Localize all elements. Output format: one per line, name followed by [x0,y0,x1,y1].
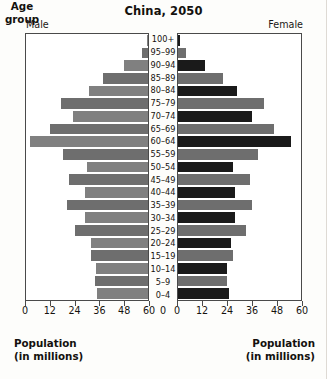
bar-row [178,47,301,60]
female-plot-area [177,33,302,301]
age-label-40-44: 40–44 [149,186,177,199]
bar-row [178,123,301,136]
bar-row [26,123,148,136]
male-bar-100+ [147,35,148,46]
age-label-15-19: 15–19 [149,250,177,263]
bar-row [178,249,301,262]
male-bar-50-54 [87,162,148,173]
age-label-10-14: 10–14 [149,263,177,276]
male-axis-caption-line2: (in millions) [14,350,134,363]
male-bar-90-94 [124,60,148,71]
bar-row [26,72,148,85]
male-bar-75-79 [61,98,148,109]
bar-row [178,199,301,212]
bar-row [26,199,148,212]
male-bar-80-84 [89,86,148,97]
age-label-0-4: 0–4 [149,288,177,301]
male-bar-65-69 [50,124,148,135]
male-bar-60-64 [30,136,148,147]
bar-row [178,186,301,199]
female-axis-caption: Population (in millions) [195,337,315,363]
bar-row [178,110,301,123]
age-label-80-84: 80–84 [149,84,177,97]
female-axis-tick-labels: 01224364860 [153,305,327,319]
bar-row [26,85,148,98]
male-bar-10-14 [96,263,148,274]
male-axis-caption: Population (in millions) [14,337,134,363]
bar-row [178,237,301,250]
male-bar-0-4 [97,288,148,299]
age-label-55-59: 55–59 [149,148,177,161]
bar-row [26,224,148,237]
bar-row [26,237,148,250]
population-pyramid-chart: China, 2050 Male Female 0–45–910–1415–19… [0,0,327,379]
bar-row [26,287,148,300]
bar-row [178,262,301,275]
age-label-75-79: 75–79 [149,97,177,110]
male-bar-30-34 [85,212,148,223]
female-bar-55-59 [178,149,258,160]
age-label-65-69: 65–69 [149,122,177,135]
male-bar-5-9 [95,276,148,287]
bar-row [26,211,148,224]
bar-row [26,262,148,275]
bar-row [26,161,148,174]
age-label-95-99: 95–99 [149,46,177,59]
male-bar-70-74 [73,111,148,122]
female-bar-40-44 [178,187,235,198]
male-bar-rows [26,34,148,300]
bar-row [26,47,148,60]
age-label-20-24: 20–24 [149,237,177,250]
female-tick-label-60: 60 [287,305,317,316]
bar-row [26,59,148,72]
female-panel-label: Female [268,19,303,30]
female-bar-25-29 [178,225,246,236]
bar-row [26,275,148,288]
bar-row [178,211,301,224]
female-bar-5-9 [178,276,227,287]
female-bar-75-79 [178,98,264,109]
male-tick-label-0: 0 [10,305,40,316]
bar-row [178,34,301,47]
female-bar-95-99 [178,48,186,59]
bar-row [26,186,148,199]
female-bar-0-4 [178,288,229,299]
age-label-25-29: 25–29 [149,224,177,237]
male-plot-area [25,33,149,301]
age-label-5-9: 5–9 [149,275,177,288]
female-bar-90-94 [178,60,205,71]
bar-row [178,135,301,148]
bar-row [178,148,301,161]
bar-row [26,148,148,161]
male-bar-40-44 [85,187,148,198]
bar-row [26,249,148,262]
female-bar-10-14 [178,263,227,274]
bar-row [178,97,301,110]
female-bar-50-54 [178,162,233,173]
male-bar-45-49 [69,174,148,185]
bar-row [26,110,148,123]
female-axis-caption-line1: Population [195,337,315,350]
bar-row [26,34,148,47]
male-bar-25-29 [75,225,148,236]
age-label-70-74: 70–74 [149,110,177,123]
age-label-50-54: 50–54 [149,161,177,174]
bar-row [178,59,301,72]
male-zero-label: 0 [160,305,166,316]
centre-zero-labels: 0 [149,305,177,316]
age-group-labels: 0–45–910–1415–1920–2425–2930–3435–3940–4… [149,33,177,301]
female-bar-70-74 [178,111,252,122]
bar-row [178,85,301,98]
male-bar-95-99 [142,48,148,59]
age-label-85-89: 85–89 [149,71,177,84]
bar-row [178,72,301,85]
male-bar-85-89 [103,73,148,84]
female-bar-rows [178,34,301,300]
bar-row [26,135,148,148]
male-bar-35-39 [67,200,148,211]
female-bar-65-69 [178,124,274,135]
age-label-35-39: 35–39 [149,199,177,212]
male-axis-caption-line1: Population [14,337,134,350]
age-label-90-94: 90–94 [149,58,177,71]
bar-row [178,161,301,174]
